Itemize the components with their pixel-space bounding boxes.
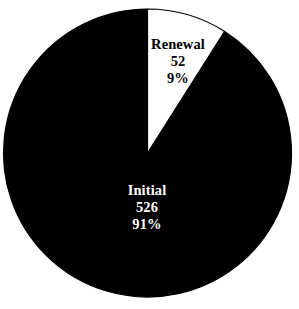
pie-chart-figure: Renewal 52 9% Initial 526 91% (0, 0, 299, 309)
pie-label-initial-value: 526 (107, 199, 187, 216)
pie-label-initial-name: Initial (107, 182, 187, 199)
pie-label-renewal: Renewal 52 9% (138, 36, 218, 87)
pie-label-initial: Initial 526 91% (107, 182, 187, 233)
pie-label-renewal-value: 52 (138, 53, 218, 70)
pie-label-renewal-name: Renewal (138, 36, 218, 53)
pie-label-renewal-percent: 9% (138, 70, 218, 87)
pie-label-initial-percent: 91% (107, 216, 187, 233)
